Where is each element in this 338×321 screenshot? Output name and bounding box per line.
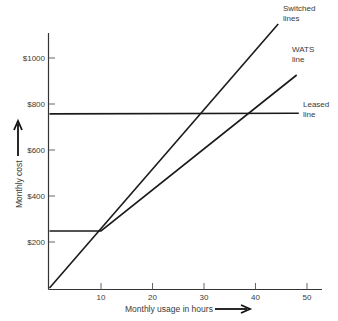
series-label: line: [303, 110, 316, 119]
series-label: WATS: [292, 45, 314, 54]
series-label: Leased: [303, 100, 329, 109]
y-axis-label: Monthly cost: [14, 160, 24, 208]
chart-canvas: 1020304050$200$400$600$800$1000 Switched…: [0, 0, 338, 321]
series-label: Switched: [283, 4, 315, 13]
x-axis-label: Monthly usage in hours: [125, 304, 213, 314]
y-axis-arrow-icon: [14, 121, 22, 156]
series-labels: SwitchedlinesWATSlineLeasedline: [283, 4, 329, 119]
x-tick-label: 20: [148, 293, 157, 302]
x-tick-label: 30: [200, 293, 209, 302]
axes: [49, 33, 323, 290]
series-lines: [50, 24, 299, 288]
series-switched-lines: [50, 24, 279, 288]
x-tick-label: 40: [251, 293, 260, 302]
series-wats-line: [50, 75, 297, 231]
series-label: lines: [283, 14, 299, 23]
x-tick-label: 10: [97, 293, 106, 302]
x-tick-label: 50: [303, 293, 312, 302]
x-axis-arrow-icon: [215, 305, 250, 313]
y-tick-label: $200: [27, 238, 45, 247]
series-label: line: [292, 55, 305, 64]
y-tick-label: $800: [27, 100, 45, 109]
series-leased-line: [50, 113, 299, 114]
y-tick-label: $1000: [23, 54, 46, 63]
chart: 1020304050$200$400$600$800$1000 Switched…: [0, 0, 338, 321]
y-tick-label: $400: [27, 192, 45, 201]
y-tick-label: $600: [27, 146, 45, 155]
